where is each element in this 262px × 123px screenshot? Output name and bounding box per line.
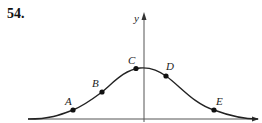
point-c-label: C	[128, 54, 136, 66]
y-axis-arrow-icon	[142, 12, 147, 20]
point-c	[133, 66, 138, 71]
point-a-label: A	[64, 95, 72, 107]
point-e	[211, 107, 216, 112]
y-axis-label: y	[133, 12, 139, 24]
point-d-label: D	[165, 60, 174, 72]
bell-curve-diagram: y A B C D E	[0, 0, 262, 123]
point-a	[70, 107, 75, 112]
point-d	[163, 73, 168, 78]
bell-curve	[28, 68, 258, 119]
point-b	[99, 89, 104, 94]
point-e-label: E	[215, 95, 223, 107]
point-b-label: B	[92, 77, 99, 89]
